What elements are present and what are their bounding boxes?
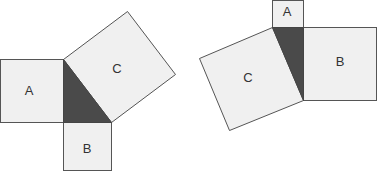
left-label-b: B — [83, 141, 92, 156]
right-label-a: A — [283, 4, 292, 19]
right-label-b: B — [336, 54, 345, 69]
left-label-c: C — [112, 61, 121, 76]
right-label-c: C — [243, 70, 252, 85]
pythagorean-diagram: A B C A B C — [0, 0, 378, 174]
right-figure: A B C — [200, 1, 377, 131]
left-label-a: A — [25, 83, 34, 98]
left-figure: A B C — [1, 12, 176, 171]
